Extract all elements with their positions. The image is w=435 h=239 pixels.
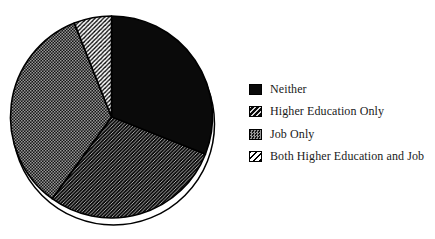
pie-area xyxy=(0,0,240,239)
pie-chart xyxy=(0,0,240,239)
legend-item-both-higher-education-and-job: Both Higher Education and Job xyxy=(249,151,424,162)
legend-item-job-only: Job Only xyxy=(249,129,424,140)
legend: Neither Higher Education Only Job Only B… xyxy=(249,84,424,174)
legend-label-job-only: Job Only xyxy=(270,129,314,140)
legend-item-higher-education-only: Higher Education Only xyxy=(249,106,424,117)
legend-item-neither: Neither xyxy=(249,84,424,95)
legend-swatch-both-higher-education-and-job-icon xyxy=(249,151,262,162)
legend-swatch-job-only-icon xyxy=(249,129,262,140)
legend-swatch-higher-education-only-icon xyxy=(249,106,262,117)
legend-label-both-higher-education-and-job: Both Higher Education and Job xyxy=(270,151,424,162)
legend-label-higher-education-only: Higher Education Only xyxy=(270,106,384,117)
legend-swatch-neither-icon xyxy=(249,84,262,95)
pie-chart-figure: Neither Higher Education Only Job Only B… xyxy=(0,0,435,239)
legend-label-neither: Neither xyxy=(270,84,307,95)
